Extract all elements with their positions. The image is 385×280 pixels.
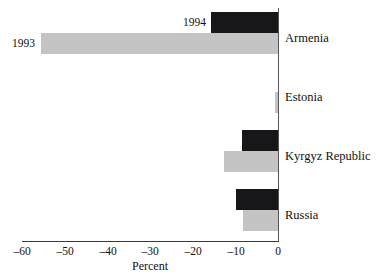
bar-kyrgyz-republic-1994 [242, 130, 278, 151]
series-annotation-1994: 1994 [183, 15, 206, 29]
x-tick-label--30: –30 [130, 244, 170, 258]
bar-kyrgyz-republic-1993 [224, 151, 278, 172]
x-tick-label--40: –40 [88, 244, 128, 258]
plot-area: 1994 1993 Armenia Estonia Kyrgyz Republi… [0, 0, 385, 246]
bar-armenia-1993 [41, 33, 278, 54]
x-tick-label--10: –10 [216, 244, 256, 258]
x-tick-label--20: –20 [173, 244, 213, 258]
x-axis-title: Percent [0, 259, 300, 273]
x-tick-label--50: –50 [45, 244, 85, 258]
bar-armenia-1994 [211, 12, 278, 33]
bar-russia-1993 [243, 210, 278, 231]
series-annotation-1993: 1993 [12, 36, 35, 50]
x-axis-line [22, 241, 279, 242]
zero-baseline [278, 8, 279, 241]
bar-russia-1994 [236, 189, 278, 210]
category-label-armenia: Armenia [285, 31, 329, 46]
category-label-russia: Russia [285, 208, 318, 223]
x-tick-label--60: –60 [2, 244, 42, 258]
category-label-estonia: Estonia [285, 90, 323, 105]
category-label-kyrgyz-republic: Kyrgyz Republic [285, 149, 371, 164]
bar-chart-figure: 1994 1993 Armenia Estonia Kyrgyz Republi… [0, 0, 385, 280]
x-tick-label-0: 0 [258, 244, 298, 258]
